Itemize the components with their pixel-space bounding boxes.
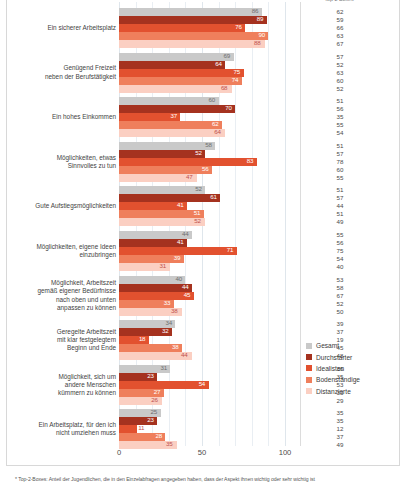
bar-row[interactable]: 38 [119, 308, 285, 316]
bar-row[interactable]: 34 [119, 320, 285, 328]
bar-row[interactable]: 11 [119, 425, 285, 433]
bar-row[interactable]: 62 [119, 121, 285, 129]
bar-row[interactable]: 44 [119, 352, 285, 360]
bar-row[interactable]: 69 [119, 53, 285, 61]
bar-value-label: 52 [195, 185, 201, 193]
top2boxes-value: 67 [301, 40, 379, 48]
bar[interactable] [119, 129, 225, 137]
bar-row[interactable]: 52 [119, 218, 285, 226]
bar-value-label: 64 [214, 128, 220, 136]
top2boxes-value: 55 [301, 121, 379, 129]
bar[interactable] [119, 292, 194, 300]
bar-row[interactable]: 88 [119, 40, 285, 48]
bar[interactable] [119, 210, 204, 218]
bar-value-label: 61 [210, 193, 216, 201]
bar-row[interactable]: 71 [119, 247, 285, 255]
bar-row[interactable]: 18 [119, 336, 285, 344]
bar-group: 8689769088 [119, 8, 285, 48]
bar-row[interactable]: 58 [119, 142, 285, 150]
bar-row[interactable]: 41 [119, 202, 285, 210]
bar-row[interactable]: 54 [119, 381, 285, 389]
bar-row[interactable]: 89 [119, 16, 285, 24]
bar-row[interactable]: 56 [119, 166, 285, 174]
top2boxes-group: 5556755440 [301, 231, 379, 271]
legend-item[interactable]: Bodenständige [306, 374, 402, 385]
legend-item[interactable]: Durchstarter [306, 351, 402, 362]
bar[interactable] [119, 425, 137, 433]
top2boxes-value: 63 [301, 69, 379, 77]
bar-value-label: 56 [202, 165, 208, 173]
bar-value-label: 71 [227, 246, 233, 254]
bar[interactable] [119, 186, 205, 194]
bar-row[interactable]: 64 [119, 129, 285, 137]
bar[interactable] [119, 24, 245, 32]
bar-row[interactable]: 45 [119, 292, 285, 300]
bar-value-label: 41 [177, 238, 183, 246]
bar-value-label: 39 [174, 254, 180, 262]
top2boxes-value: 37 [301, 433, 379, 441]
bar[interactable] [119, 16, 267, 24]
x-axis-tick: 0 [117, 448, 121, 457]
bar[interactable] [119, 218, 205, 226]
x-axis: 050100 [119, 446, 285, 462]
bar-row[interactable]: 68 [119, 85, 285, 93]
bar[interactable] [119, 381, 209, 389]
bar[interactable] [119, 121, 222, 129]
bar[interactable] [119, 32, 268, 40]
bar-row[interactable]: 39 [119, 255, 285, 263]
bar-row[interactable]: 52 [119, 186, 285, 194]
category-label: Ein hohes Einkommen [8, 113, 116, 121]
top2boxes-group: 6259666367 [301, 8, 379, 48]
bar[interactable] [119, 166, 212, 174]
bar-row[interactable]: 37 [119, 113, 285, 121]
top2boxes-value: 52 [301, 85, 379, 93]
bar-value-label: 52 [195, 149, 201, 157]
bar-row[interactable]: 26 [119, 397, 285, 405]
bar-row[interactable]: 44 [119, 231, 285, 239]
top2boxes-value: 40 [301, 263, 379, 271]
bar-row[interactable]: 52 [119, 150, 285, 158]
bar-row[interactable]: 31 [119, 365, 285, 373]
legend-item[interactable]: Distanzierte [306, 386, 402, 397]
bar-group: 3432183844 [119, 320, 285, 360]
bar-value-label: 58 [205, 141, 211, 149]
top2boxes-value: 56 [301, 239, 379, 247]
bar[interactable] [119, 194, 220, 202]
bar-row[interactable]: 64 [119, 61, 285, 69]
legend-label: Bodenständige [316, 376, 360, 383]
bar-row[interactable]: 70 [119, 105, 285, 113]
bar[interactable] [119, 150, 205, 158]
bar[interactable] [119, 158, 257, 166]
bar-row[interactable]: 38 [119, 344, 285, 352]
bar[interactable] [119, 97, 219, 105]
bar-row[interactable]: 33 [119, 300, 285, 308]
bar-row[interactable]: 40 [119, 276, 285, 284]
bar-row[interactable]: 31 [119, 263, 285, 271]
bar[interactable] [119, 69, 244, 77]
bar-row[interactable]: 61 [119, 194, 285, 202]
bar-row[interactable]: 25 [119, 409, 285, 417]
bar-group: 6070376264 [119, 97, 285, 137]
legend-item[interactable]: Gesamt [306, 340, 402, 351]
legend-item[interactable]: Idealisten [306, 363, 402, 374]
bar[interactable] [119, 85, 232, 93]
bar-row[interactable]: 27 [119, 389, 285, 397]
bar-row[interactable]: 47 [119, 174, 285, 182]
top2boxes-value: 51 [301, 210, 379, 218]
bar-value-label: 75 [234, 68, 240, 76]
bar-row[interactable]: 28 [119, 433, 285, 441]
bar-value-label: 44 [182, 230, 188, 238]
bar[interactable] [119, 40, 265, 48]
bar[interactable] [119, 105, 235, 113]
top2boxes-value: 63 [301, 32, 379, 40]
bar[interactable] [119, 61, 225, 69]
bar-row[interactable]: 75 [119, 69, 285, 77]
bar-row[interactable]: 51 [119, 210, 285, 218]
bar-row[interactable]: 74 [119, 77, 285, 85]
bar-row[interactable]: 44 [119, 284, 285, 292]
bar[interactable] [119, 8, 262, 16]
bar-row[interactable]: 60 [119, 97, 285, 105]
top2boxes-value: 51 [301, 142, 379, 150]
bar-row[interactable]: 41 [119, 239, 285, 247]
bar-value-label: 18 [139, 335, 145, 343]
